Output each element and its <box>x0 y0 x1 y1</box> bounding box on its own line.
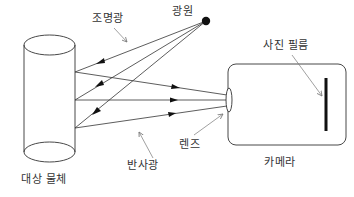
illumination-ray-2 <box>75 21 206 100</box>
label-photo-film: 사진 필름 <box>263 40 309 51</box>
arrow-icon <box>171 84 180 89</box>
label-target-object: 대상 물체 <box>21 174 67 185</box>
camera-body <box>228 64 346 145</box>
arrow-icon <box>168 112 176 117</box>
lens-ellipse <box>226 88 232 112</box>
pointer-illumination <box>114 28 127 42</box>
arrow-icon <box>95 80 104 87</box>
target-object-cylinder <box>24 35 75 162</box>
cylinder-top-ellipse <box>24 35 75 55</box>
arrow-icon <box>96 58 105 64</box>
cylinder-bottom-ellipse <box>24 142 75 162</box>
arrow-icon <box>170 98 178 103</box>
illumination-arrowheads <box>92 58 105 115</box>
label-camera: 카메라 <box>264 157 296 168</box>
pointer-lens <box>194 114 223 135</box>
photo-film-bar <box>325 78 328 131</box>
label-light-source: 광원 <box>172 6 193 17</box>
camera-principle-diagram: 조명광 광원 사진 필름 렌즈 반사광 카메라 대상 물체 <box>0 0 354 197</box>
reflected-arrowheads <box>168 84 180 117</box>
reflected-rays <box>75 72 227 128</box>
pointer-reflected <box>139 132 153 158</box>
label-lens: 렌즈 <box>179 139 200 150</box>
reflected-ray-1 <box>75 72 227 95</box>
label-reflected-light: 반사광 <box>127 160 159 171</box>
label-illumination-light: 조명광 <box>92 13 124 24</box>
illumination-ray-1 <box>75 21 206 72</box>
light-source-dot <box>202 17 210 25</box>
diagram-canvas <box>0 0 354 197</box>
